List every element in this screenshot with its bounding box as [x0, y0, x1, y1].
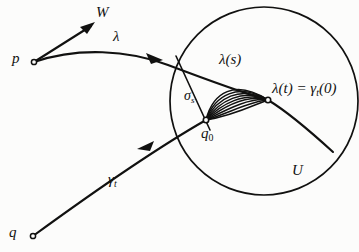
label-lambda-of-t-suffix: (0)	[319, 80, 337, 96]
label-point-q: q	[9, 225, 17, 240]
label-sigma-base: σ	[184, 88, 191, 103]
label-sigma-subscript: s	[191, 95, 195, 105]
vector-W-shaft	[34, 26, 91, 62]
geodesic-fan	[206, 90, 268, 120]
label-vector-w: W	[96, 5, 109, 20]
curve-gamma-t-continuation	[268, 100, 333, 152]
label-q-base: q	[201, 125, 209, 141]
point-marker-q	[30, 233, 35, 238]
label-gamma-subscript: t	[114, 178, 117, 189]
label-lambda-of-s: λ(s)	[219, 52, 241, 67]
diagram-canvas: p q W λ λ(s) λ(t) = γt(0) σs q0 γt U	[0, 0, 359, 252]
curve-gamma-t	[33, 120, 206, 236]
label-curve-lambda: λ	[113, 29, 120, 44]
label-q-subscript: 0	[209, 132, 214, 143]
point-marker-lambda-t	[265, 97, 270, 102]
point-marker-q0	[203, 117, 208, 122]
label-lambda-of-t-equals-gamma-t-zero: λ(t) = γt(0)	[272, 81, 336, 96]
label-point-p: p	[12, 51, 20, 66]
label-lambda-of-t-subscript: t	[316, 87, 319, 98]
diagram-vector-layer	[0, 0, 359, 252]
label-geodesic-sigma-s: σs	[184, 89, 195, 103]
gamma-direction-arrowhead	[137, 141, 154, 151]
label-neighborhood-u: U	[292, 163, 303, 178]
label-point-q-zero: q0	[201, 126, 213, 141]
label-curve-gamma-t: γt	[108, 172, 117, 187]
point-marker-p	[31, 59, 36, 64]
label-lambda-of-t-prefix: λ(t) = γ	[272, 80, 316, 96]
